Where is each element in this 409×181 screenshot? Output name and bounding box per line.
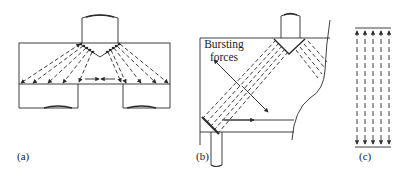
bursting-forces-line1: Bursting [203, 38, 245, 51]
panel-a-label: (a) [17, 150, 29, 162]
bursting-forces-line2: forces [203, 51, 245, 64]
panel-b [200, 14, 330, 167]
panel-b-label: (b) [196, 150, 209, 162]
bursting-forces-label: Bursting forces [203, 38, 245, 64]
panel-a [19, 15, 170, 108]
panel-c-label: (c) [359, 150, 371, 162]
panel-c [355, 28, 391, 147]
